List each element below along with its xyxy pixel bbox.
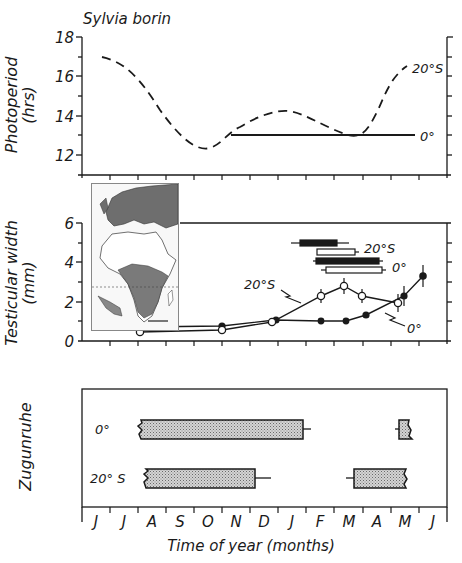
svg-text:A: A — [371, 513, 382, 531]
svg-text:4: 4 — [64, 254, 74, 272]
svg-text:M: M — [343, 513, 356, 531]
svg-text:N: N — [230, 513, 241, 531]
svg-text:O: O — [202, 513, 214, 531]
zug-0-bar-1 — [138, 420, 303, 439]
photoperiod-label-20s: 20°S — [412, 61, 443, 76]
svg-text:M: M — [399, 513, 412, 531]
range-label-0: 0° — [392, 260, 407, 275]
testis-label-0: 0° — [407, 321, 422, 336]
photoperiod-label-0: 0° — [420, 129, 435, 144]
testis-0-markers — [136, 272, 426, 330]
photoperiod-yticks: 18 16 14 12 — [55, 29, 74, 165]
svg-text:J: J — [91, 513, 98, 531]
svg-text:0: 0 — [64, 333, 74, 351]
svg-text:J: J — [287, 513, 294, 531]
svg-text:J: J — [428, 513, 435, 531]
zug-row-label-0: 0° — [95, 422, 110, 437]
zug-row-label-20s: 20° S — [90, 471, 125, 486]
svg-text:F: F — [316, 513, 325, 531]
svg-text:14: 14 — [55, 108, 74, 126]
svg-text:A: A — [146, 513, 157, 531]
photoperiod-panel — [76, 37, 453, 180]
zug-20s-bar-1 — [144, 469, 255, 488]
svg-text:16: 16 — [55, 68, 74, 86]
zugunruhe-panel — [82, 389, 447, 522]
testis-0-line — [140, 276, 423, 327]
svg-text:S: S — [175, 513, 185, 531]
zug-0-bar-2 — [399, 420, 412, 439]
svg-text:18: 18 — [55, 29, 74, 47]
svg-text:12: 12 — [55, 147, 74, 165]
testis-yticks: 6 4 2 0 — [64, 215, 74, 351]
svg-text:2: 2 — [64, 294, 74, 312]
svg-text:6: 6 — [64, 215, 74, 233]
month-labels: J J A S O N D J F M A M J — [91, 513, 435, 531]
africa-europe-map-icon — [92, 184, 178, 330]
svg-text:J: J — [119, 513, 126, 531]
x-axis-label: Time of year (months) — [0, 537, 462, 555]
testis-label-20s: 20°S — [244, 277, 275, 292]
range-label-20s: 20°S — [364, 241, 395, 256]
svg-text:D: D — [258, 513, 270, 531]
range-map-inset — [91, 183, 179, 331]
figure-canvas: 18 16 14 12 20°S 0° — [0, 0, 462, 563]
zug-20s-bar-2 — [354, 469, 407, 488]
